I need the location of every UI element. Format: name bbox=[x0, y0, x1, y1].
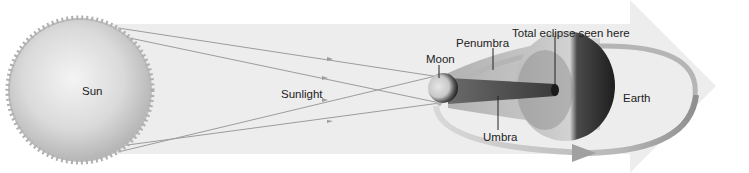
total-eclipse-label: Total eclipse seen here bbox=[512, 28, 630, 40]
sun-label: Sun bbox=[82, 86, 102, 98]
solar-eclipse-diagram: Sun Sunlight Moon Penumbra Total eclipse… bbox=[0, 0, 749, 173]
moon-label: Moon bbox=[426, 54, 455, 66]
moon bbox=[428, 73, 458, 103]
sunlight-label: Sunlight bbox=[281, 89, 323, 101]
sun bbox=[8, 18, 152, 162]
penumbra-label: Penumbra bbox=[456, 38, 509, 50]
umbra-label: Umbra bbox=[483, 132, 518, 144]
earth-label: Earth bbox=[623, 93, 651, 105]
